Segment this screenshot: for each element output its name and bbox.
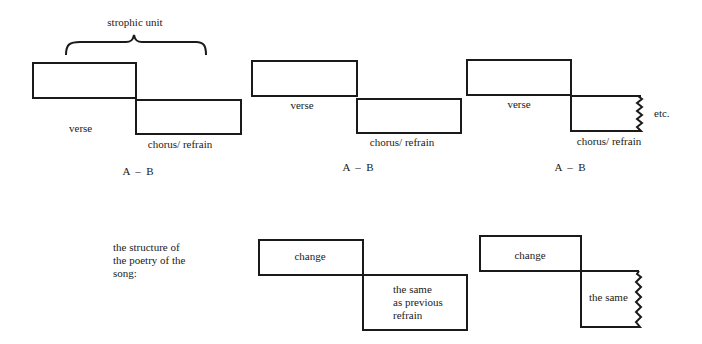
strophic-unit-brace bbox=[66, 35, 206, 55]
caption-line-2: the poetry of the bbox=[113, 254, 185, 267]
strophic-structure-diagram: strophic unit verse chorus/ refrain A – … bbox=[0, 0, 702, 344]
unit2-chorus-label: chorus/ refrain bbox=[370, 136, 434, 149]
unit2-formula: A – B bbox=[342, 161, 373, 174]
unit3-chorus-label: chorus/ refrain bbox=[577, 135, 641, 148]
poetry2-same-label: the same bbox=[589, 291, 628, 304]
unit1-verse-box bbox=[33, 63, 136, 98]
poetry1-change-label: change bbox=[294, 250, 325, 263]
poetry1-same-label: the same as previous refrain bbox=[393, 283, 443, 322]
same-line-3: refrain bbox=[393, 309, 443, 322]
unit2-chorus-box bbox=[357, 99, 461, 133]
poetry2-change-label: change bbox=[514, 249, 545, 262]
caption-line-3: song: bbox=[113, 267, 185, 280]
same-line-2: as previous bbox=[393, 296, 443, 309]
unit1-verse-label: verse bbox=[69, 122, 92, 135]
unit3-verse-box bbox=[467, 60, 571, 95]
continuation-etc-label: etc. bbox=[654, 107, 670, 120]
same-line-1: the same bbox=[393, 283, 443, 296]
unit2-verse-box bbox=[252, 61, 357, 96]
caption-line-1: the structure of bbox=[113, 241, 185, 254]
strophic-unit-label: strophic unit bbox=[107, 16, 162, 29]
unit3-formula: A – B bbox=[554, 161, 585, 174]
unit3-chorus-box-torn bbox=[571, 96, 642, 131]
unit1-chorus-label: chorus/ refrain bbox=[148, 138, 212, 151]
unit1-formula: A – B bbox=[122, 165, 153, 178]
unit1-chorus-box bbox=[136, 100, 241, 134]
poetry-structure-caption: the structure of the poetry of the song: bbox=[113, 241, 185, 280]
unit2-verse-label: verse bbox=[290, 99, 313, 112]
unit3-verse-label: verse bbox=[507, 98, 530, 111]
